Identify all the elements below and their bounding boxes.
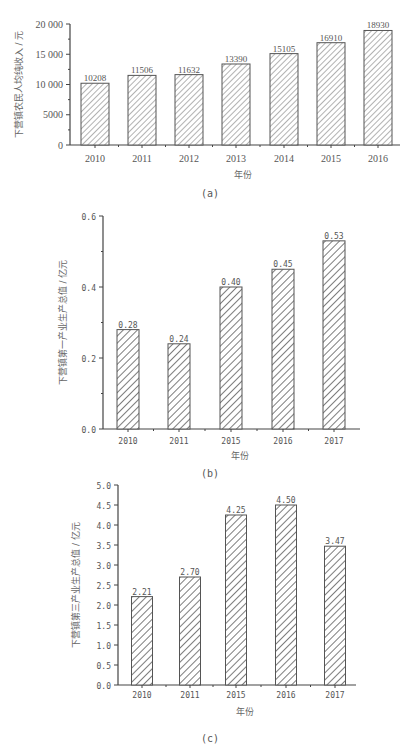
x-axis-title: 年份 [231, 450, 249, 461]
bar-value-label: 0.45 [273, 260, 292, 269]
y-tick-label: 0.0 [97, 682, 112, 691]
y-tick-label: 1.5 [97, 622, 112, 631]
y-axis-title: 下营镇第一产业生产总值 / 亿元 [57, 260, 68, 386]
bar-value-label: 10208 [84, 73, 107, 83]
y-tick-label: 4.0 [97, 522, 112, 531]
bar [220, 287, 242, 429]
y-tick-label: 0.4 [82, 284, 97, 293]
x-tick-label: 2010 [118, 437, 137, 446]
x-tick-label: 2011 [169, 437, 188, 446]
y-tick-label: 0.6 [82, 213, 97, 222]
y-tick-label: 0.2 [82, 355, 97, 364]
x-axis-title: 年份 [236, 706, 254, 717]
bar [270, 54, 298, 145]
x-tick-label: 2015 [226, 691, 245, 700]
chart-c-tertiary-industry: 0.00.51.01.52.02.53.03.54.04.55.02.21201… [70, 482, 356, 745]
x-tick-label: 2016 [368, 153, 388, 164]
bar [168, 344, 190, 429]
x-tick-label: 2013 [226, 153, 246, 164]
chart-b-primary-industry: 0.00.20.40.60.2820100.2420110.4020150.45… [57, 213, 360, 480]
bar [128, 75, 156, 145]
bar-value-label: 0.24 [169, 335, 188, 344]
y-tick-label: 0.0 [82, 426, 97, 435]
y-tick-label: 2.0 [97, 602, 112, 611]
bar-value-label: 3.47 [325, 537, 344, 546]
bar [272, 269, 294, 429]
y-tick-label: 0 [58, 140, 63, 151]
bar [317, 43, 345, 145]
figure-caption: (c) [201, 733, 219, 744]
bar-value-label: 15105 [273, 44, 296, 54]
x-tick-label: 2015 [221, 437, 240, 446]
x-tick-label: 2011 [132, 153, 152, 164]
y-tick-label: 2.5 [97, 582, 112, 591]
y-tick-label: 20 000 [36, 19, 64, 30]
x-tick-label: 2010 [85, 153, 105, 164]
y-tick-label: 10 000 [36, 79, 64, 90]
bar [81, 83, 109, 145]
bar [132, 597, 153, 685]
bar [117, 330, 139, 429]
bar [222, 64, 250, 145]
x-axis-title: 年份 [234, 169, 252, 180]
bar-value-label: 0.40 [221, 278, 240, 287]
bar-value-label: 13390 [225, 54, 248, 64]
x-tick-label: 2017 [325, 691, 344, 700]
bar [325, 546, 346, 685]
x-tick-label: 2011 [180, 691, 199, 700]
y-axis-title: 下营镇第三产业生产总值 / 亿元 [70, 522, 81, 648]
bar [226, 515, 247, 685]
bar-value-label: 4.25 [226, 506, 245, 515]
bar-value-label: 0.53 [324, 232, 343, 241]
chart-a-farmer-income: 0500010 00015 00020 00010208201011506201… [13, 19, 400, 200]
bar [175, 75, 203, 145]
x-tick-label: 2015 [321, 153, 341, 164]
y-tick-label: 15 000 [36, 49, 64, 60]
y-tick-label: 5.0 [97, 482, 112, 491]
bar [276, 505, 297, 685]
y-tick-label: 4.5 [97, 502, 112, 511]
y-tick-label: 3.5 [97, 542, 112, 551]
y-axis-title: 下营镇农民人均纯收入 / 元 [13, 31, 24, 139]
x-tick-label: 2016 [273, 437, 292, 446]
x-tick-label: 2012 [179, 153, 199, 164]
bar-value-label: 2.21 [132, 588, 151, 597]
x-tick-label: 2017 [324, 437, 343, 446]
x-tick-label: 2014 [274, 153, 294, 164]
bar-value-label: 18930 [367, 20, 390, 30]
bar-value-label: 2.70 [180, 568, 199, 577]
bar-value-label: 11506 [131, 65, 154, 75]
x-tick-label: 2010 [132, 691, 151, 700]
y-tick-label: 1.0 [97, 642, 112, 651]
bar [323, 241, 345, 429]
figure: 0500010 00015 00020 00010208201011506201… [0, 0, 414, 752]
figure-caption: (b) [201, 468, 219, 479]
bar-value-label: 0.28 [118, 321, 137, 330]
x-tick-label: 2016 [276, 691, 295, 700]
y-tick-label: 5000 [43, 109, 63, 120]
bar [364, 30, 392, 145]
y-tick-label: 0.5 [97, 662, 112, 671]
bar [180, 577, 201, 685]
y-tick-label: 3.0 [97, 562, 112, 571]
bar-value-label: 16910 [320, 33, 343, 43]
bar-value-label: 11632 [178, 65, 200, 75]
bar-value-label: 4.50 [276, 496, 295, 505]
figure-caption: (a) [201, 188, 219, 199]
